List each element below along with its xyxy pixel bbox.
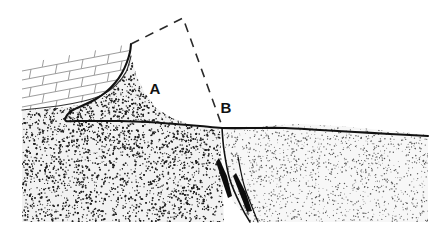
geologic-cross-section-figure: A B — [0, 0, 438, 237]
point-label-b: B — [221, 99, 232, 116]
light-stipple-unit — [224, 123, 429, 222]
point-label-a: A — [150, 80, 161, 97]
cross-section-drawing: A B — [0, 0, 438, 237]
